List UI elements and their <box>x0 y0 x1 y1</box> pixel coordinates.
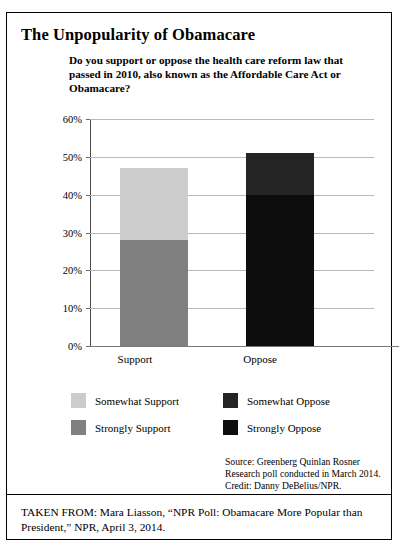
y-axis-tick <box>86 346 90 347</box>
y-axis-tick <box>86 119 90 120</box>
chart-plot-area: 0%10%20%30%40%50%60% Support Oppose <box>90 119 374 346</box>
y-axis-tick-label: 30% <box>63 227 82 238</box>
legend-item-somewhat-support: Somewhat Support <box>71 393 179 408</box>
y-axis-tick <box>86 308 90 309</box>
legend-label: Strongly Support <box>95 422 170 434</box>
source-credit: Source: Greenberg Quinlan Rosner Researc… <box>225 456 385 493</box>
y-axis-tick-label: 40% <box>63 189 82 200</box>
y-axis-tick <box>86 233 90 234</box>
x-axis-line <box>89 346 399 347</box>
legend-row: Somewhat Support Somewhat Oppose <box>71 393 371 420</box>
legend-row: Strongly Support Strongly Oppose <box>71 420 371 447</box>
figure-caption: TAKEN FROM: Mara Liasson, “NPR Poll: Oba… <box>21 505 379 535</box>
y-axis-tick-label: 20% <box>63 265 82 276</box>
gridline <box>90 119 374 120</box>
y-axis-tick-label: 0% <box>68 341 82 352</box>
y-axis-tick-label: 50% <box>63 151 82 162</box>
bar-segment-somewhat-support <box>120 168 188 240</box>
figure-panel: The Unpopularity of Obamacare Do you sup… <box>6 12 392 540</box>
divider <box>7 494 391 495</box>
chart-legend: Somewhat Support Somewhat Oppose Strongl… <box>71 393 371 447</box>
bar-segment-strongly-oppose <box>246 195 314 346</box>
legend-item-strongly-oppose: Strongly Oppose <box>223 420 321 435</box>
bar-oppose <box>246 153 314 346</box>
y-axis-tick <box>86 157 90 158</box>
bar-segment-somewhat-oppose <box>246 153 314 195</box>
legend-label: Strongly Oppose <box>247 422 321 434</box>
y-axis-tick <box>86 270 90 271</box>
page-title: The Unpopularity of Obamacare <box>21 25 255 45</box>
legend-label: Somewhat Support <box>95 395 179 407</box>
gridline <box>90 157 374 158</box>
legend-swatch-icon <box>71 393 86 408</box>
x-axis-label-support: Support <box>80 353 190 365</box>
x-axis-label-oppose: Oppose <box>205 353 315 365</box>
bar-support <box>120 168 188 346</box>
y-axis-tick-label: 60% <box>63 114 82 125</box>
legend-label: Somewhat Oppose <box>247 395 330 407</box>
bar-segment-strongly-support <box>120 240 188 346</box>
legend-item-somewhat-oppose: Somewhat Oppose <box>223 393 330 408</box>
legend-item-strongly-support: Strongly Support <box>71 420 170 435</box>
y-axis-tick <box>86 195 90 196</box>
legend-swatch-icon <box>223 393 238 408</box>
y-axis-tick-label: 10% <box>63 303 82 314</box>
legend-swatch-icon <box>71 420 86 435</box>
chart-question: Do you support or oppose the health care… <box>69 53 357 96</box>
legend-swatch-icon <box>223 420 238 435</box>
